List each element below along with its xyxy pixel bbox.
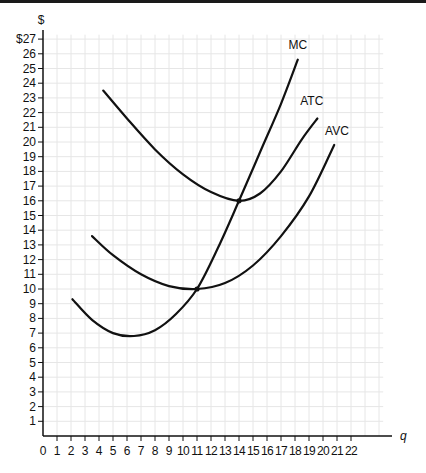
- x-tick-label: 20: [317, 444, 330, 458]
- y-tick-label: 10: [23, 282, 37, 296]
- x-tick-label: 16: [261, 444, 274, 458]
- x-tick-label: 6: [124, 444, 131, 458]
- y-tick-label: 2: [29, 400, 36, 414]
- y-tick-label: 1: [29, 414, 36, 428]
- x-tick-label: 22: [345, 444, 358, 458]
- x-tick-label: 18: [289, 444, 302, 458]
- y-tick-label: 7: [29, 326, 36, 340]
- y-tick-label: 18: [23, 164, 37, 178]
- curve-atc: [103, 91, 317, 201]
- intersection-point: [194, 286, 199, 291]
- grid: [43, 35, 383, 436]
- y-tick-label: 14: [23, 223, 37, 237]
- x-axis-label: q: [400, 429, 407, 443]
- x-tick-label: 19: [303, 444, 316, 458]
- x-tick-label: 4: [96, 444, 103, 458]
- y-tick-label: 13: [23, 238, 37, 252]
- x-tick-label: 1: [54, 444, 61, 458]
- y-tick-label: 8: [29, 311, 36, 325]
- y-tick-label: 16: [23, 194, 37, 208]
- x-tick-label: 8: [152, 444, 159, 458]
- intersection-point: [236, 198, 241, 203]
- y-tick-label: 17: [23, 179, 37, 193]
- x-tick-label: 21: [331, 444, 344, 458]
- x-tick-label: 0: [40, 444, 47, 458]
- x-tick-label: 15: [247, 444, 260, 458]
- y-tick-label: 3: [29, 385, 36, 399]
- x-tick-label: 3: [82, 444, 89, 458]
- y-tick-label: 26: [23, 47, 37, 61]
- y-tick-label: 21: [23, 120, 37, 134]
- curve-label-atc: ATC: [300, 94, 323, 108]
- curve-avc: [92, 145, 334, 289]
- x-tick-label: 17: [275, 444, 288, 458]
- y-tick-label: 9: [29, 297, 36, 311]
- cost-curves-chart: 1234567891011121314151617181920212223242…: [0, 0, 426, 473]
- y-tick-label: 23: [23, 91, 37, 105]
- y-tick-label: 24: [23, 76, 37, 90]
- y-tick-label: 22: [23, 106, 37, 120]
- y-axis-label: $: [38, 13, 45, 27]
- y-tick-label: $27: [16, 32, 36, 46]
- x-tick-label: 11: [191, 444, 203, 458]
- x-tick-label: 5: [110, 444, 117, 458]
- x-tick-label: 14: [233, 444, 246, 458]
- x-tick-label: 2: [68, 444, 75, 458]
- y-tick-label: 25: [23, 62, 37, 76]
- x-tick-label: 13: [219, 444, 232, 458]
- y-tick-label: 4: [29, 370, 36, 384]
- labels: MCATCAVC: [288, 38, 349, 137]
- y-tick-label: 15: [23, 209, 37, 223]
- y-tick-label: 5: [29, 356, 36, 370]
- curve-label-mc: MC: [288, 38, 307, 52]
- y-tick-label: 6: [29, 341, 36, 355]
- x-tick-label: 7: [138, 444, 145, 458]
- y-tick-label: 20: [23, 135, 37, 149]
- y-tick-label: 11: [24, 267, 37, 281]
- y-tick-label: 19: [23, 150, 37, 164]
- curve-label-avc: AVC: [325, 124, 349, 138]
- y-tick-label: 12: [23, 253, 37, 267]
- x-tick-label: 10: [177, 444, 190, 458]
- curve-mc: [72, 60, 297, 336]
- x-tick-label: 9: [166, 444, 173, 458]
- x-tick-label: 12: [205, 444, 218, 458]
